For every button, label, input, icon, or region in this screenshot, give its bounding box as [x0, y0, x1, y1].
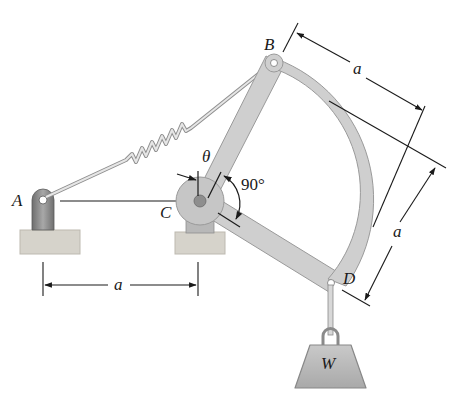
- label-dim-cd: a: [393, 223, 402, 240]
- label-weight: W: [321, 355, 335, 372]
- mechanism-diagram: A B C D θ 90° a a a W: [0, 0, 453, 402]
- label-c: C: [160, 204, 171, 221]
- label-theta: θ: [202, 148, 210, 165]
- support-a: [20, 189, 80, 254]
- label-d: D: [343, 270, 355, 287]
- label-dim-cb: a: [353, 60, 362, 77]
- bell-crank: [176, 54, 374, 292]
- diagram-canvas: [0, 0, 453, 402]
- label-90-degrees: 90°: [241, 176, 265, 193]
- label-a: A: [12, 192, 22, 209]
- label-dim-ac: a: [114, 276, 123, 293]
- label-b: B: [264, 36, 274, 53]
